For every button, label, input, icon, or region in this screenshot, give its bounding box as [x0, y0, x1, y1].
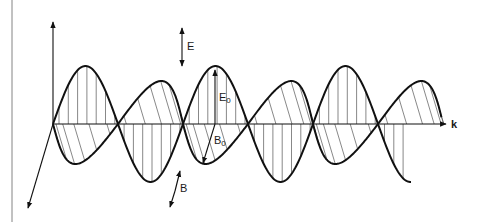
e0-label: E0: [219, 92, 231, 105]
e-field-label: E: [187, 41, 194, 52]
e0-label-sub: 0: [226, 96, 230, 105]
b-direction-arrow-lower: [170, 191, 175, 207]
k-label: k: [451, 119, 457, 130]
em-wave-diagram: [0, 0, 483, 222]
b-field-label: B: [180, 183, 187, 194]
b0-label: B0: [214, 135, 226, 148]
b0-label-sub: 0: [221, 139, 225, 148]
b-axis: [28, 124, 53, 208]
